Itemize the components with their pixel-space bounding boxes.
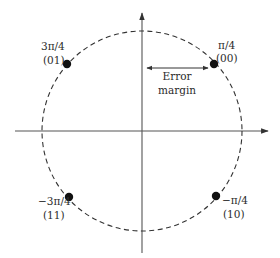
error-margin-label-line2: margin	[158, 84, 196, 96]
constellation-point-10	[212, 192, 220, 200]
bits-label-01: (01)	[43, 54, 65, 66]
phase-label-pi-over-4: π/4	[218, 39, 235, 51]
bits-label-11: (11)	[43, 209, 65, 221]
phase-label-3pi-over-4: 3π/4	[41, 40, 65, 52]
bits-label-00: (00)	[216, 52, 238, 64]
phase-label-neg-pi-over-4: −π/4	[222, 194, 248, 206]
qpsk-constellation-diagram: π/4 (00) 3π/4 (01) −3π/4 (11) −π/4 (10) …	[0, 0, 280, 258]
bits-label-10: (10)	[223, 208, 245, 220]
error-margin-label-line1: Error	[162, 70, 192, 82]
phase-label-neg-3pi-over-4: −3π/4	[38, 195, 71, 207]
